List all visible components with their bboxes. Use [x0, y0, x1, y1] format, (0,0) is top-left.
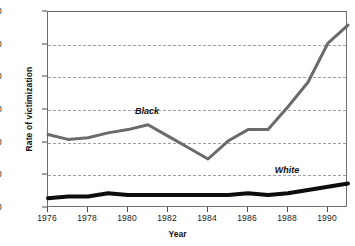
series-line-black — [48, 25, 348, 159]
x-tick-label: 1990 — [317, 213, 337, 223]
y-tick-label: 100 — [0, 39, 2, 49]
y-tick-label: 60 — [0, 104, 2, 114]
x-axis-title: Year — [0, 229, 355, 239]
series-label-black: Black — [135, 106, 159, 116]
x-tick-label: 1976 — [37, 213, 57, 223]
y-tick-label: 0 — [0, 202, 2, 212]
series-label-white: White — [275, 165, 300, 175]
x-tick-label: 1984 — [197, 213, 217, 223]
x-tick-label: 1978 — [77, 213, 97, 223]
y-axis-title-wrap: Rate of victimization — [8, 11, 22, 207]
x-tick-label: 1982 — [157, 213, 177, 223]
chart-figure: Rate of victimization 020406080100120 19… — [0, 0, 355, 246]
y-tick-label: 80 — [0, 71, 2, 81]
y-tick-label: 20 — [0, 169, 2, 179]
series-line-white — [48, 184, 348, 199]
y-axis-title: Rate of victimization — [24, 34, 34, 184]
series-lines — [48, 12, 348, 208]
y-tick-label: 40 — [0, 137, 2, 147]
y-tick-label: 120 — [0, 6, 2, 16]
x-tick-label: 1988 — [277, 213, 297, 223]
x-tick-label: 1980 — [117, 213, 137, 223]
plot-area — [47, 11, 347, 207]
x-tick-label: 1986 — [237, 213, 257, 223]
